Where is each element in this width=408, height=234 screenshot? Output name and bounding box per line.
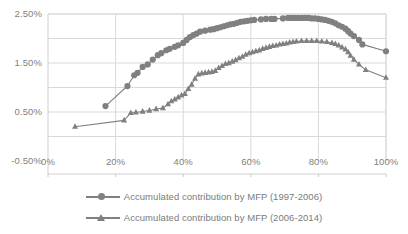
data-point-marker xyxy=(145,61,151,67)
data-point-marker xyxy=(134,70,140,76)
circle-marker-icon xyxy=(86,191,120,203)
data-point-marker xyxy=(351,33,357,39)
series-lines-group xyxy=(75,18,386,127)
legend-item-series-1[interactable]: Accumulated contribution by MFP (1997-20… xyxy=(0,186,408,207)
data-point-marker xyxy=(383,48,389,54)
chart-container: 2.50%1.50%0.50%-0.50% 0%20%40%60%80%100%… xyxy=(0,0,408,234)
y-tick-label: 1.50% xyxy=(2,57,42,68)
y-tick-label: 2.50% xyxy=(2,8,42,19)
data-point-marker xyxy=(363,66,369,72)
series-line-2 xyxy=(75,41,386,127)
data-point-marker xyxy=(251,17,257,23)
data-point-marker xyxy=(359,41,365,47)
x-tick-label: 0% xyxy=(28,156,68,167)
data-point-marker xyxy=(160,105,166,111)
x-tick-label: 20% xyxy=(96,156,136,167)
y-tick-label: 0.50% xyxy=(2,106,42,117)
data-point-marker xyxy=(150,56,156,62)
legend-label-series-1: Accumulated contribution by MFP (1997-20… xyxy=(120,191,322,202)
gridlines-group xyxy=(48,14,386,161)
legend-item-series-2[interactable]: Accumulated contribution by MFP (2006-20… xyxy=(0,207,408,228)
x-tick-label: 80% xyxy=(298,156,338,167)
legend-label-series-2: Accumulated contribution by MFP (2006-20… xyxy=(120,212,322,223)
x-tick-label: 100% xyxy=(366,156,406,167)
triangle-marker-icon xyxy=(86,212,120,224)
x-tick-label: 60% xyxy=(231,156,271,167)
data-point-marker xyxy=(271,16,277,22)
chart-legend: Accumulated contribution by MFP (1997-20… xyxy=(0,186,408,228)
data-point-marker xyxy=(102,103,108,109)
x-tick-label: 40% xyxy=(163,156,203,167)
data-point-marker xyxy=(124,83,130,89)
